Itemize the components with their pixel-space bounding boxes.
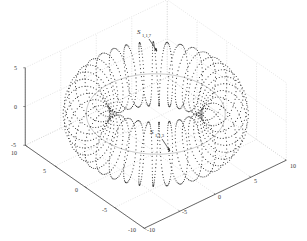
grid-lines: [25, 0, 286, 228]
z-tick-0: 0: [14, 104, 17, 110]
right-axis-tick-labels: -10 -5 0 5 10: [147, 163, 296, 233]
axes-box: [23, 68, 286, 230]
left-tick-neg10: -10: [128, 227, 136, 233]
torus-helix-3d-plot: 5 0 -5 10 5 0 -5 -10 -10 -5 0 5 10 S 1,1…: [0, 0, 307, 241]
left-tick-neg5: -5: [102, 207, 107, 213]
z-tick-5: 5: [14, 65, 17, 71]
right-tick-neg5: -5: [182, 209, 187, 215]
right-tick-5: 5: [254, 178, 257, 184]
helix-points: [63, 41, 249, 187]
left-tick-10: 10: [11, 150, 17, 156]
annotation-bottom-label: S: [150, 128, 154, 136]
left-tick-5: 5: [43, 168, 46, 174]
annotation-bottom-subscript: 1,1,3: [155, 133, 165, 139]
z-tick-neg5: -5: [11, 142, 16, 148]
annotation-top-subscript: 1,1,7: [142, 33, 152, 39]
annotation-top-label: S: [137, 28, 141, 36]
left-axis-tick-labels: 10 5 0 -5 -10: [11, 150, 136, 233]
annotation-top: S 1,1,7: [137, 28, 157, 52]
left-tick-0: 0: [75, 187, 78, 193]
right-tick-0: 0: [218, 194, 221, 200]
right-tick-neg10: -10: [147, 227, 155, 233]
z-tick-labels: 5 0 -5: [11, 65, 17, 148]
right-tick-10: 10: [290, 163, 296, 169]
annotation-top-arrowhead-icon: [154, 48, 157, 52]
